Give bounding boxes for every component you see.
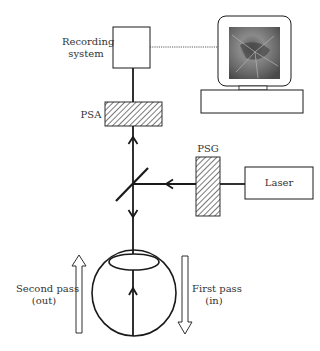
first-pass-line2: (in) (192, 295, 236, 307)
second-pass-line1: Second pass (16, 283, 72, 295)
second-pass-arrow-icon (72, 255, 86, 333)
optical-setup-diagram: Recording system PSA PSG Laser Second pa… (0, 0, 320, 351)
second-pass-label: Second pass (out) (16, 283, 72, 307)
psa-block (105, 102, 162, 126)
first-pass-line1: First pass (192, 283, 236, 295)
recording-label-line2: system (62, 48, 110, 60)
recording-system-label: Recording system (62, 36, 110, 60)
laser-label: Laser (245, 177, 313, 189)
psg-block (196, 157, 220, 216)
computer-icon (201, 16, 303, 113)
psa-label: PSA (80, 109, 102, 121)
first-pass-label: First pass (in) (192, 283, 236, 307)
psg-label: PSG (196, 143, 220, 155)
eye-model (92, 250, 176, 336)
computer-base (201, 90, 303, 113)
second-pass-line2: (out) (16, 295, 72, 307)
first-pass-arrow-icon (178, 256, 192, 334)
recording-system-box (113, 27, 150, 68)
eye-lens (109, 254, 159, 270)
recording-label-line1: Recording (62, 36, 110, 48)
